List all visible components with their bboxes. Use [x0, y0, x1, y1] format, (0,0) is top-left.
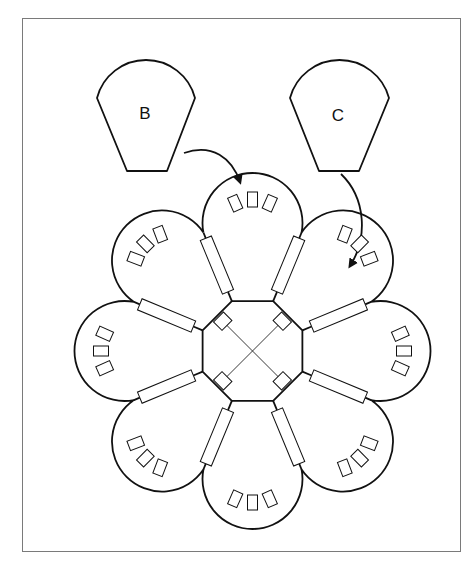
tab: [96, 326, 114, 341]
tab: [360, 436, 378, 451]
piece-label-c: C: [332, 106, 344, 125]
tab: [137, 235, 155, 253]
connector-bar: [137, 299, 195, 332]
connector-bar: [271, 236, 304, 294]
connector-stub: [134, 302, 140, 304]
tab: [391, 326, 409, 341]
piece-label-b: B: [139, 104, 150, 123]
connector-stub: [365, 302, 371, 304]
connector-stub: [302, 372, 311, 376]
tab: [228, 490, 243, 508]
tab: [127, 251, 145, 266]
connector-stub: [193, 327, 202, 331]
connector-stub: [302, 327, 311, 331]
connector-stub: [365, 398, 371, 400]
tab: [153, 459, 168, 477]
tab: [248, 495, 258, 510]
tab: [127, 436, 145, 451]
assembly-diagram: B C: [0, 0, 476, 563]
connector-stub: [273, 401, 277, 410]
connector-stub: [228, 292, 232, 301]
tab: [248, 192, 258, 207]
connector-bar: [200, 408, 233, 466]
connector-stub: [203, 464, 205, 470]
tab: [228, 194, 243, 212]
tab: [337, 459, 352, 477]
connector-bar: [271, 408, 304, 466]
connector-bar: [309, 299, 367, 332]
tab: [94, 346, 109, 356]
tab: [96, 361, 114, 376]
connector-stub: [273, 292, 277, 301]
connector-bar: [200, 236, 233, 294]
connector-stub: [203, 232, 205, 238]
tab: [360, 251, 378, 266]
tab: [391, 361, 409, 376]
tab: [351, 449, 369, 467]
tab: [351, 235, 369, 253]
tab: [137, 449, 155, 467]
octagonal-assembly: [74, 173, 430, 529]
connector-stub: [299, 232, 301, 238]
tab: [262, 490, 277, 508]
connector-bar: [309, 370, 367, 403]
connector-bar: [137, 370, 195, 403]
connector-stub: [228, 401, 232, 410]
tab: [337, 225, 352, 243]
tab: [153, 225, 168, 243]
tab: [397, 346, 412, 356]
connector-stub: [193, 372, 202, 376]
connector-stub: [134, 398, 140, 400]
tab: [262, 194, 277, 212]
connector-stub: [299, 464, 301, 470]
